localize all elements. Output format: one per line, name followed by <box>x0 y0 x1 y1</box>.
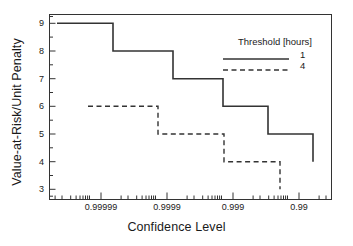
ytick-label-5: 5 <box>26 129 44 139</box>
legend-sample-solid-icon <box>219 50 293 60</box>
chart-legend: Threshold [hours] 1 4 <box>219 36 331 71</box>
legend-entry-4: 4 <box>219 60 331 71</box>
ytick-label-8: 8 <box>26 46 44 56</box>
legend-label-1: 1 <box>293 49 305 60</box>
ytick-label-3: 3 <box>26 184 44 194</box>
series-line-threshold-4 <box>88 106 280 189</box>
chart-figure: 9 8 7 6 5 4 3 0.99999 0.9999 0.999 0.99 … <box>0 0 353 246</box>
ytick-label-4: 4 <box>26 157 44 167</box>
xtick-label-0: 0.99999 <box>85 202 118 212</box>
ytick-label-6: 6 <box>26 101 44 111</box>
xtick-label-1: 0.9999 <box>153 202 181 212</box>
x-minor-ticks <box>55 196 326 200</box>
x-axis-title: Confidence Level <box>0 220 353 234</box>
legend-label-4: 4 <box>293 60 305 71</box>
y-major-ticks <box>50 23 56 189</box>
legend-title: Threshold [hours] <box>219 36 331 47</box>
y-axis-title: Value-at-Risk/Unit Penalty <box>10 32 24 192</box>
ytick-label-7: 7 <box>26 74 44 84</box>
xtick-label-2: 0.999 <box>222 202 245 212</box>
ytick-label-9: 9 <box>26 18 44 28</box>
xtick-label-3: 0.99 <box>290 202 308 212</box>
legend-sample-dashed-icon <box>219 61 293 71</box>
legend-entry-1: 1 <box>219 49 331 60</box>
x-major-ticks <box>101 193 299 200</box>
